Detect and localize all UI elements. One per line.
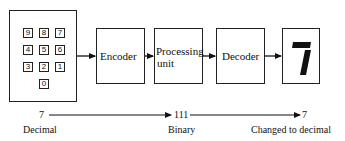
input-decimal-label: Decimal — [23, 124, 57, 135]
input-decimal-value: 7 — [39, 109, 44, 120]
binary-label: Binary — [168, 124, 195, 135]
output-decimal-label: Changed to decimal — [251, 124, 331, 135]
seven-segment-digit-icon — [0, 0, 345, 141]
output-decimal-value: 7 — [302, 109, 307, 120]
binary-value: 111 — [174, 109, 188, 120]
